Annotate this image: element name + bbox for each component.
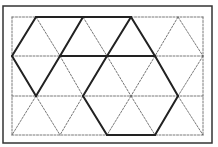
grid-diagonal: [107, 56, 131, 96]
grid-diagonal: [60, 56, 83, 96]
grid-diagonal: [36, 17, 60, 56]
grid-diagonal: [155, 17, 178, 56]
grid-diagonal: [131, 56, 155, 96]
shape-edge: [83, 56, 107, 96]
shape-edge: [107, 17, 131, 56]
shape-edge: [12, 17, 36, 56]
dashed-grid: [12, 17, 203, 135]
shape-edge: [155, 96, 178, 135]
outer-frame: [3, 6, 212, 143]
shape-edge: [155, 56, 178, 96]
grid-diagonal: [178, 96, 203, 135]
shape-edge: [60, 17, 83, 56]
shape-edge: [131, 17, 155, 56]
shape-edge: [83, 96, 107, 135]
bold-shape-outline: [12, 17, 178, 135]
grid-diagonal: [36, 96, 60, 135]
grid-diagonal: [131, 96, 155, 135]
grid-diagonal: [60, 96, 83, 135]
grid-diagonal: [178, 56, 203, 96]
shape-edge: [36, 56, 60, 96]
grid-diagonal: [178, 17, 203, 56]
grid-diagonal: [83, 17, 107, 56]
shape-edge: [12, 56, 36, 96]
triangular-grid-diagram: [0, 0, 218, 147]
grid-diagonal: [12, 96, 36, 135]
grid-diagonal: [107, 96, 131, 135]
